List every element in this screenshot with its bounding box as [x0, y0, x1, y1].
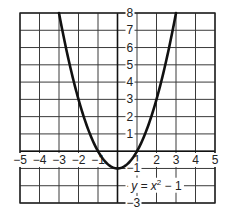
- equation-label: y = x2 − 1: [128, 178, 184, 193]
- y-tick-label: 3: [127, 92, 134, 106]
- x-tick-label: −3: [52, 153, 66, 167]
- y-tick-label: −3: [127, 196, 141, 210]
- x-tick-label: −4: [33, 153, 47, 167]
- x-tick-label: 5: [212, 153, 219, 167]
- y-tick-label: 7: [127, 23, 134, 37]
- x-axis-tick-labels: −5−4−3−2−112345: [12, 153, 220, 167]
- equation-rhs: − 1: [161, 179, 182, 193]
- y-tick-label: 8: [127, 6, 134, 20]
- axes: [20, 13, 215, 203]
- y-tick-label: 1: [127, 127, 134, 141]
- y-tick-label: 5: [127, 58, 134, 72]
- svg-text:y = x2 − 1: y = x2 − 1: [130, 178, 182, 193]
- equation-lhs: y = x: [130, 179, 158, 193]
- x-tick-label: −5: [13, 153, 27, 167]
- x-tick-label: 2: [153, 153, 160, 167]
- y-tick-label: 2: [127, 110, 134, 124]
- parabola-graph: −5−4−3−2−112345 87654321−1−2−3 y = x2 − …: [0, 0, 230, 216]
- y-tick-label: 6: [127, 41, 134, 55]
- y-tick-label: 4: [127, 75, 134, 89]
- x-tick-label: 4: [192, 153, 199, 167]
- x-tick-label: −2: [72, 153, 86, 167]
- x-tick-label: 3: [173, 153, 180, 167]
